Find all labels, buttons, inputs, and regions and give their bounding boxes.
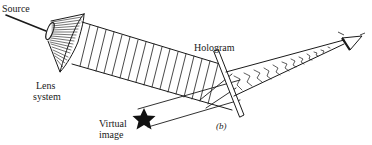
lens-system-label-line1: Lens xyxy=(36,80,55,91)
virtual-image-label-line2: image xyxy=(99,129,123,140)
hologram-reconstruction-diagram: Source Lens system Hologram Virtual imag… xyxy=(0,0,372,145)
source-label: Source xyxy=(2,3,30,14)
lens-system-label-line2: system xyxy=(33,91,61,102)
source-beam-line xyxy=(6,15,46,31)
virtual-image-label-line1: Virtual xyxy=(99,118,127,129)
reconstructed-beam xyxy=(226,40,344,96)
lens-system xyxy=(44,14,84,72)
diagram-drawing xyxy=(0,0,372,145)
hologram-plate xyxy=(214,49,244,117)
illuminating-beam xyxy=(72,22,232,110)
panel-label: (b) xyxy=(216,121,227,132)
hologram-label: Hologram xyxy=(194,42,235,53)
